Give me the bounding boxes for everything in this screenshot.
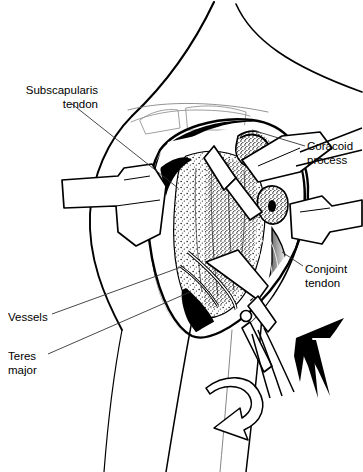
leader-vessels — [52, 266, 184, 314]
surgical-illustration-figure: Subscapularis tendon Coracoid process Co… — [0, 0, 363, 472]
label-teres-major: Teres major — [8, 350, 37, 377]
retractor-right — [290, 196, 362, 244]
illustration-canvas — [0, 0, 363, 472]
rotation-arrow-icon — [206, 378, 263, 440]
retractor-left — [62, 164, 166, 246]
label-coracoid-process: Coracoid process — [307, 140, 353, 167]
label-conjoint-tendon: Conjoint tendon — [305, 263, 347, 290]
scissors-hinge-pivot — [241, 311, 252, 322]
label-vessels: Vessels — [8, 311, 48, 325]
label-subscapularis-tendon: Subscapularis tendon — [6, 84, 98, 111]
direction-arrow-icon — [294, 318, 344, 398]
